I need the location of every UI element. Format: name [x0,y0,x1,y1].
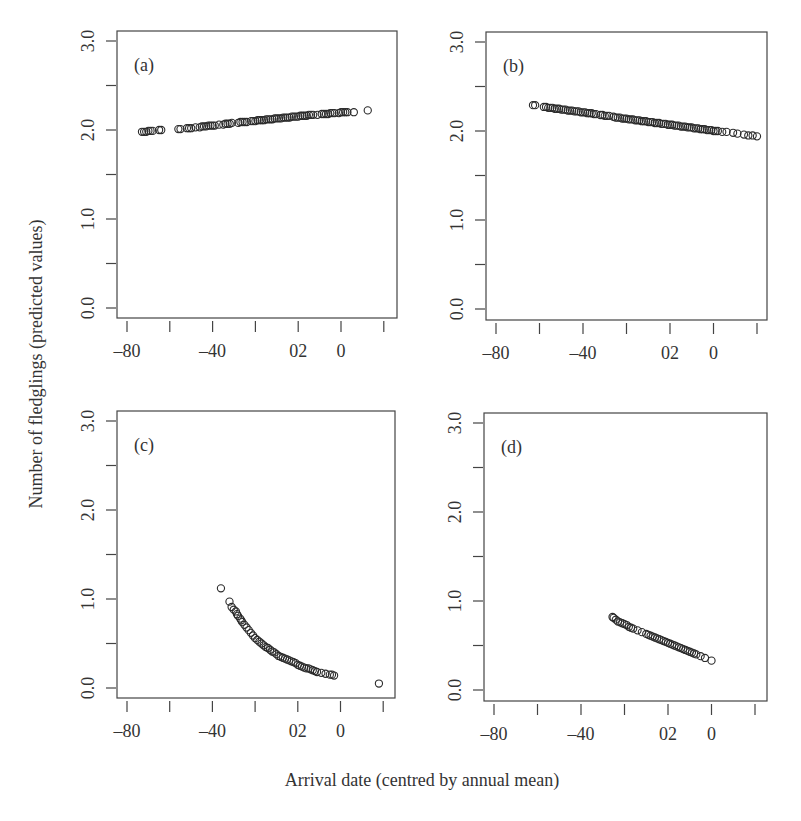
y-tick-label: 1.0 [78,588,98,611]
panel-label: (b) [503,56,524,77]
x-tick-label: –40 [198,341,226,361]
data-point [217,585,224,592]
x-tick-label: 02 [289,341,307,361]
panels: –80–400200.01.02.03.0(a)–80–400200.01.02… [78,30,767,744]
y-tick-label: 2.0 [78,499,98,522]
y-tick-label: 3.0 [445,412,465,435]
plot-frame [117,411,395,698]
y-tick-label: 3.0 [78,410,98,433]
scatter-points [138,107,371,136]
x-tick-label: 02 [289,721,307,741]
figure: –80–400200.01.02.03.0(a)–80–400200.01.02… [0,0,801,821]
x-tick-label: –80 [113,721,141,741]
panel-label: (a) [134,55,154,76]
plot-frame [484,413,767,701]
data-point [708,657,715,664]
y-tick-label: 3.0 [78,30,98,53]
panel-b: –80–400200.01.02.03.0(b) [447,31,767,363]
y-axis-label: Number of fledglings (predicted values) [26,220,47,509]
scatter-points [529,102,760,140]
data-point [634,627,641,634]
y-tick-label: 0.0 [447,298,467,321]
scatter-points [609,613,715,664]
y-tick-label: 2.0 [447,120,467,143]
x-tick-label: –80 [482,343,510,363]
scatter-points [217,585,382,687]
x-tick-label: 0 [709,343,718,363]
y-tick-label: 0.0 [445,679,465,702]
panel-d: –80–400200.01.02.03.0(d) [445,412,767,744]
x-tick-label: –80 [113,341,141,361]
y-tick-label: 0.0 [78,297,98,320]
x-tick-label: –80 [480,724,508,744]
data-point [697,653,704,660]
x-tick-label: 02 [661,343,679,363]
x-axis-label: Arrival date (centred by annual mean) [285,770,559,791]
panel-label: (c) [134,435,154,456]
y-tick-label: 1.0 [78,208,98,231]
data-point [375,680,382,687]
x-tick-label: 0 [337,341,346,361]
data-point [753,133,760,140]
panel-c: –80–400200.01.02.03.0(c) [78,410,395,741]
panel-label: (d) [501,437,522,458]
plot-frame [117,31,397,318]
plot-frame [486,32,767,320]
y-tick-label: 3.0 [447,31,467,54]
plot-svg: –80–400200.01.02.03.0(a)–80–400200.01.02… [0,0,801,821]
y-tick-label: 2.0 [78,119,98,142]
x-tick-label: –40 [567,724,595,744]
x-tick-label: 0 [707,724,716,744]
x-tick-label: –40 [198,721,226,741]
y-tick-label: 1.0 [445,590,465,613]
panel-a: –80–400200.01.02.03.0(a) [78,30,397,361]
y-tick-label: 2.0 [445,501,465,524]
data-point [364,107,371,114]
x-tick-label: –40 [569,343,597,363]
x-tick-label: 02 [659,724,677,744]
x-tick-label: 0 [336,721,345,741]
y-tick-label: 0.0 [78,677,98,700]
y-tick-label: 1.0 [447,209,467,232]
